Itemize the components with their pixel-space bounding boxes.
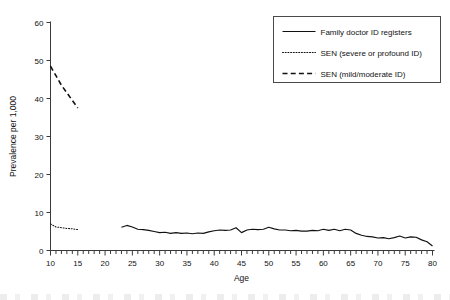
data-series-group (51, 66, 433, 246)
y-tick-label: 40 (35, 95, 44, 104)
y-tick-label: 0 (39, 247, 44, 256)
x-axis-ticks (51, 251, 433, 256)
x-axis-tick-labels: 101520253035404550556065707580 (46, 259, 437, 268)
y-tick-label: 60 (35, 19, 44, 28)
x-tick-label: 70 (373, 259, 382, 268)
legend-label-0: Family doctor ID registers (321, 28, 412, 37)
x-tick-label: 80 (428, 259, 437, 268)
x-tick-label: 30 (155, 259, 164, 268)
series-line-0 (121, 225, 432, 246)
x-tick-label: 10 (46, 259, 55, 268)
chart-container: 0102030405060 10152025303540455055606570… (0, 0, 450, 300)
x-tick-label: 35 (182, 259, 191, 268)
y-axis-tick-labels: 0102030405060 (35, 19, 44, 256)
x-tick-label: 55 (292, 259, 301, 268)
page-edge-artifact (0, 294, 450, 300)
y-axis-title: Prevalence per 1,000 (8, 96, 18, 177)
y-tick-label: 50 (35, 57, 44, 66)
y-axis-ticks (47, 23, 51, 251)
x-axis-title: Age (234, 273, 249, 283)
series-line-2 (51, 66, 78, 108)
y-tick-label: 30 (35, 133, 44, 142)
x-tick-label: 40 (210, 259, 219, 268)
x-tick-label: 20 (101, 259, 110, 268)
x-tick-label: 15 (73, 259, 82, 268)
x-tick-label: 25 (128, 259, 137, 268)
x-tick-label: 60 (319, 259, 328, 268)
legend-label-1: SEN (severe or profound ID) (321, 49, 423, 58)
prevalence-by-age-line-chart: 0102030405060 10152025303540455055606570… (0, 0, 450, 300)
y-tick-label: 20 (35, 171, 44, 180)
x-tick-label: 50 (264, 259, 273, 268)
x-tick-label: 45 (237, 259, 246, 268)
x-tick-label: 75 (401, 259, 410, 268)
y-tick-label: 10 (35, 209, 44, 218)
series-line-1 (51, 224, 78, 230)
legend-label-2: SEN (mild/moderate ID) (321, 70, 406, 79)
chart-legend: Family doctor ID registersSEN (severe or… (274, 17, 441, 83)
x-tick-label: 65 (346, 259, 355, 268)
